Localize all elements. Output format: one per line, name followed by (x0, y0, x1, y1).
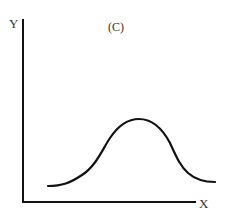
x-axis-label: X (199, 197, 208, 210)
bell-curve (48, 119, 215, 186)
y-axis-label: Y (9, 17, 18, 30)
bell-curve-diagram: Y (C) X (0, 0, 236, 211)
figure-title: (C) (108, 21, 124, 33)
